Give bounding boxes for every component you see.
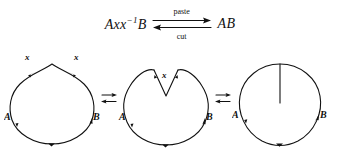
diagram-loop-with-notch: x A B xyxy=(118,48,214,153)
diagram-loop-with-spike-labels: x x A B xyxy=(4,48,100,153)
rightleftarrows-icon xyxy=(214,89,232,107)
formula-right-expression: AB xyxy=(218,16,236,32)
label-a: A xyxy=(232,109,239,120)
diagram-row: x x A B xyxy=(0,48,340,153)
paste-cut-arrows: paste cut xyxy=(151,7,213,41)
label-b: B xyxy=(92,111,100,122)
label-b: B xyxy=(319,109,327,120)
formula-left-base: Axx xyxy=(105,17,127,32)
arrow-right xyxy=(102,93,117,97)
label-x-notch: x xyxy=(161,70,167,80)
cut-label: cut xyxy=(177,32,187,41)
diagram-circle-with-slit: A B xyxy=(232,48,328,153)
arrowhead-bottom xyxy=(48,143,55,146)
connector-1 xyxy=(98,86,120,110)
rightleftarrows-icon xyxy=(100,89,118,107)
formula-left-tail: B xyxy=(138,17,147,32)
arrow-right xyxy=(216,93,231,97)
arrow-left xyxy=(215,100,230,104)
formula-row: Axx−1B paste cut AB xyxy=(0,6,340,42)
rightwards-arrow-icon xyxy=(153,18,211,24)
label-a: A xyxy=(4,111,11,122)
label-x-left: x xyxy=(24,52,30,62)
connector-2 xyxy=(212,86,234,110)
arrowhead-at-a xyxy=(13,118,19,127)
label-a: A xyxy=(118,111,126,122)
paste-label: paste xyxy=(173,7,189,16)
arrowhead-bottom xyxy=(162,144,169,147)
formula-left-expression: Axx−1B xyxy=(105,15,147,33)
leftwards-arrow-icon xyxy=(153,25,211,31)
label-b: B xyxy=(205,111,213,122)
formula-left-exponent: −1 xyxy=(127,15,138,25)
double-arrow-icon xyxy=(152,16,212,32)
label-x-right: x xyxy=(73,52,79,62)
arrow-left xyxy=(101,100,116,104)
loop-outline xyxy=(10,64,94,144)
figure-root: Axx−1B paste cut AB xyxy=(0,0,340,153)
loop-outline xyxy=(124,70,208,145)
